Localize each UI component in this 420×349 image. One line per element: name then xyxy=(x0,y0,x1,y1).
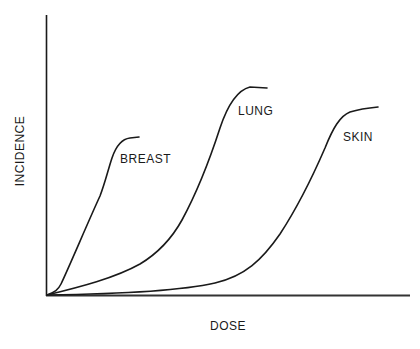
dose-response-chart xyxy=(0,0,420,349)
y-axis-label: INCIDENCE xyxy=(13,116,27,187)
lung-curve xyxy=(47,87,267,295)
x-axis-label: DOSE xyxy=(210,319,246,333)
breast-label: BREAST xyxy=(120,152,171,166)
skin-label: SKIN xyxy=(343,130,373,144)
lung-label: LUNG xyxy=(238,104,273,118)
skin-curve xyxy=(47,107,378,295)
